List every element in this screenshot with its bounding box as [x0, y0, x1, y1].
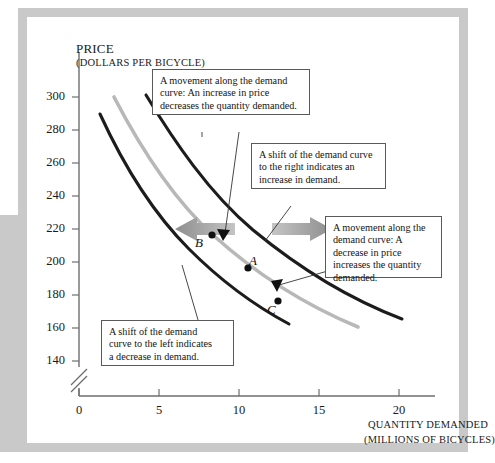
- point-label-B: B: [195, 235, 203, 251]
- frame-top: [18, 8, 468, 17]
- y-tick-label: 200: [35, 254, 65, 269]
- x-tick-label: 0: [67, 403, 91, 418]
- annotation-line: A movement along the demand: [160, 75, 303, 87]
- annotation-line: curve to the left indicates: [109, 338, 227, 350]
- annotation-shift-left: A shift of the demand curve to the left …: [101, 320, 234, 366]
- annotation-line: demanded.: [333, 272, 435, 284]
- y-tick-label: 280: [35, 122, 65, 137]
- y-axis-units: (DOLLARS PER BICYCLE): [76, 57, 205, 68]
- x-axis-units: (MILLIONS OF BICYCLES): [364, 434, 495, 445]
- x-tick-label: 20: [387, 403, 411, 418]
- annotation-line: to the right indicates an: [259, 161, 379, 173]
- annotation-line: A movement along the: [333, 222, 435, 234]
- frame-right: [459, 8, 468, 452]
- annotation-line: decrease in price: [333, 247, 435, 259]
- frame-left-thin: [18, 8, 27, 215]
- point-label-A: A: [249, 253, 257, 269]
- block-arrow-right: [272, 217, 332, 241]
- annotation-movement-down: A movement along the demand curve: A dec…: [325, 216, 442, 278]
- annotation-line: a decrease in demand.: [109, 351, 227, 363]
- x-tick-label: 5: [147, 403, 171, 418]
- curve-demand-original: [114, 97, 358, 327]
- y-tick-label: 240: [35, 188, 65, 203]
- frame-left-wide: [0, 215, 27, 452]
- x-axis-ticks: [79, 389, 399, 396]
- y-tick-label: 260: [35, 155, 65, 170]
- annotation-shift-right: A shift of the demand curve to the right…: [251, 143, 386, 189]
- annotation-movement-up: A movement along the demand curve: An in…: [152, 69, 310, 115]
- annotation-line: A shift of the demand curve: [259, 149, 379, 161]
- x-tick-label: 10: [227, 403, 251, 418]
- y-tick-label: 140: [35, 353, 65, 368]
- point-label-C: C: [267, 302, 276, 318]
- y-tick-label: 220: [35, 221, 65, 236]
- data-point-B: [208, 231, 215, 238]
- y-axis-title: PRICE: [76, 41, 114, 57]
- annotation-line: increase in demand.: [259, 174, 379, 186]
- x-axis-title: QUANTITY DEMANDED: [368, 419, 488, 430]
- annotation-line: demand curve: A: [333, 234, 435, 246]
- y-axis-ticks: [72, 97, 79, 361]
- annotation-line: increases the quantity: [333, 259, 435, 271]
- x-tick-label: 15: [307, 403, 331, 418]
- y-tick-label: 300: [35, 89, 65, 104]
- y-tick-label: 160: [35, 320, 65, 335]
- annotation-line: A shift of the demand: [109, 326, 227, 338]
- annotation-line: decreases the quantity demanded.: [160, 100, 303, 112]
- y-tick-label: 180: [35, 287, 65, 302]
- annotation-line: curve: An increase in price: [160, 87, 303, 99]
